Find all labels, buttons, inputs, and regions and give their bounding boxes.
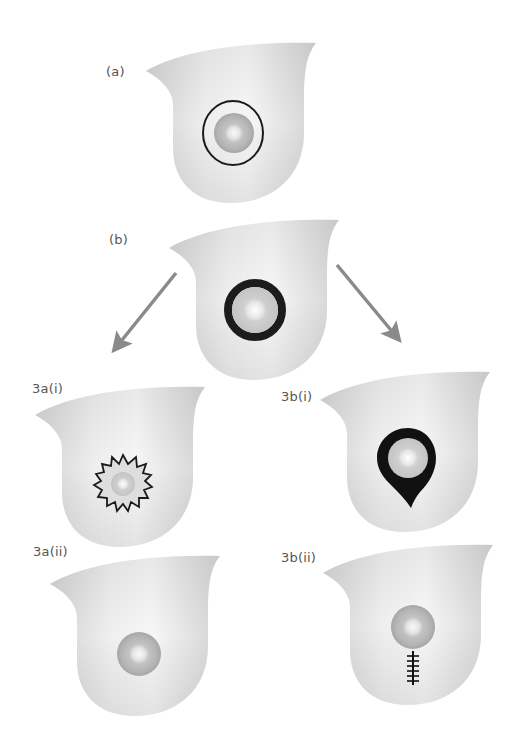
- nipple-areola: [388, 438, 428, 478]
- panel-b: [169, 220, 339, 380]
- nipple-areola: [232, 287, 278, 333]
- nipple-areola: [214, 113, 254, 153]
- panel-3a-i: [35, 387, 205, 547]
- procedure-diagram: [0, 0, 521, 738]
- label-3b-ii: 3b(ii): [281, 550, 316, 565]
- panel-a: [146, 43, 316, 203]
- label-3b-i: 3b(i): [281, 389, 312, 404]
- label-3a-ii: 3a(ii): [33, 544, 68, 559]
- label-3a-i: 3a(i): [32, 381, 63, 396]
- panel-3b-ii: [323, 545, 493, 705]
- panel-3a-ii: [50, 556, 220, 716]
- label-a: (a): [106, 64, 125, 79]
- nipple-areola: [111, 472, 135, 496]
- arrow-down-right: [337, 265, 395, 335]
- arrow-down-left: [118, 273, 176, 345]
- label-b: (b): [109, 232, 128, 247]
- panel-3b-i: [320, 372, 490, 532]
- nipple-areola: [117, 632, 161, 676]
- nipple-areola: [391, 605, 435, 649]
